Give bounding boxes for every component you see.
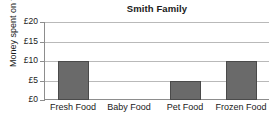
x-tick-label: Baby Food [101,102,157,113]
chart-title: Smith Family [45,2,269,15]
x-tick-label: Frozen Food [213,102,269,113]
y-tick-mark [40,61,45,62]
y-tick-label: £10 [0,56,38,65]
y-tick-label: £0 [0,95,38,104]
y-tick-mark [40,100,45,101]
gridline [45,42,269,43]
x-tick-label: Fresh Food [45,102,101,113]
y-tick-label: £20 [0,17,38,26]
y-tick-mark [40,81,45,82]
bar [170,81,201,101]
plot-area [45,22,269,100]
bar [58,61,89,100]
x-tick-label: Pet Food [157,102,213,113]
bar [226,61,257,100]
y-tick-label: £15 [0,37,38,46]
y-tick-mark [40,42,45,43]
y-tick-mark [40,22,45,23]
gridline [45,22,269,23]
bar-chart: Smith Family Money spent on food £0£5£10… [0,0,271,123]
y-tick-label: £5 [0,76,38,85]
